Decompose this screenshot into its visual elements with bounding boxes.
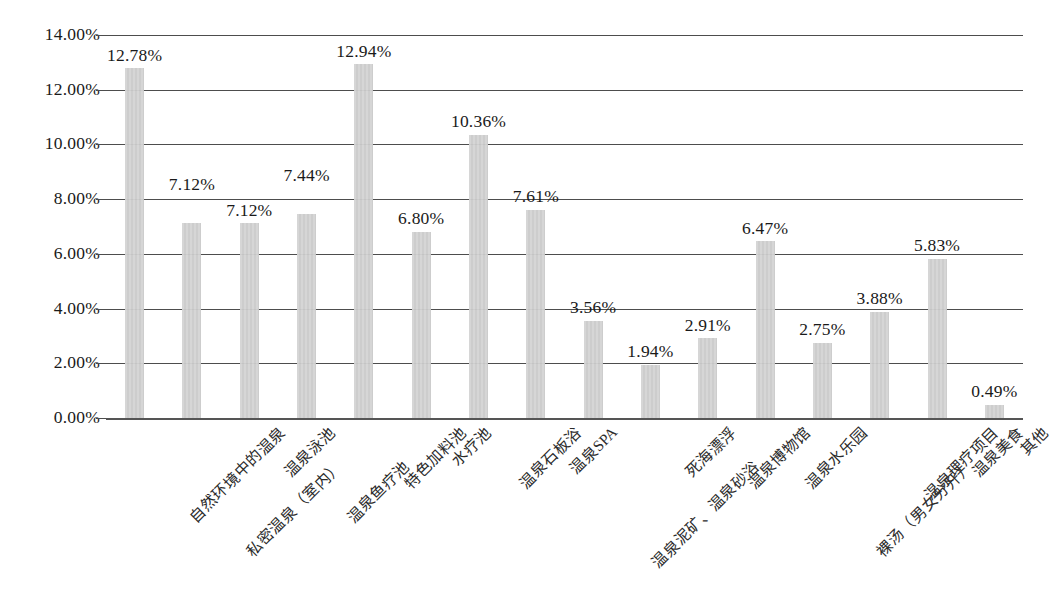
bar-group: 7.61%	[526, 35, 545, 418]
bar-group: 5.83%	[928, 35, 947, 418]
bar-group: 2.91%	[698, 35, 717, 418]
gridline	[106, 418, 1023, 420]
y-axis-tick-label: 8.00%	[4, 190, 100, 208]
y-axis-tick-label: 4.00%	[4, 300, 100, 318]
bar-value-label: 7.44%	[283, 167, 329, 185]
bar	[928, 259, 947, 418]
bar-value-label: 2.91%	[685, 317, 731, 335]
bar-value-label: 7.12%	[226, 202, 272, 220]
x-axis-category-label: 温泉泥矿、温泉砂浴	[649, 458, 762, 571]
bar	[985, 405, 1004, 418]
bar	[125, 68, 144, 418]
y-axis-tick-label: 12.00%	[4, 81, 100, 99]
y-axis-tick	[96, 363, 106, 364]
bar	[240, 223, 259, 418]
plot-area: 12.78%7.12%7.12%7.44%12.94%6.80%10.36%7.…	[106, 35, 1023, 418]
bar-value-label: 2.75%	[799, 321, 845, 339]
y-axis-tick-label: 6.00%	[4, 245, 100, 263]
bar-group: 12.94%	[354, 35, 373, 418]
bar	[756, 241, 775, 418]
x-axis-category-label: 温泉鱼疗池	[344, 458, 412, 526]
bar-group: 2.75%	[813, 35, 832, 418]
bar	[354, 64, 373, 418]
y-axis-tick-label: 0.00%	[4, 409, 100, 427]
bar	[297, 214, 316, 418]
y-axis-tick	[96, 309, 106, 310]
bar-group: 12.78%	[125, 35, 144, 418]
bar-value-label: 3.88%	[857, 290, 903, 308]
x-axis-labels: 自然环境中的温泉私密温泉（室内）温泉泳池温泉鱼疗池特色加料池水疗池温泉石板浴温泉…	[106, 424, 1023, 594]
bar	[870, 312, 889, 418]
y-axis-tick	[96, 199, 106, 200]
bar	[469, 135, 488, 418]
y-axis-tick	[96, 144, 106, 145]
bar	[412, 232, 431, 418]
y-axis-tick	[96, 254, 106, 255]
bar-group: 0.49%	[985, 35, 1004, 418]
bar-group: 6.47%	[756, 35, 775, 418]
bar-value-label: 3.56%	[570, 299, 616, 317]
bar	[584, 321, 603, 418]
bar	[698, 338, 717, 418]
x-axis-category-label: 自然环境中的温泉	[186, 424, 288, 526]
bar	[641, 365, 660, 418]
bar-group: 1.94%	[641, 35, 660, 418]
bar-group: 10.36%	[469, 35, 488, 418]
bar-group: 7.44%	[297, 35, 316, 418]
bar	[182, 223, 201, 418]
bar-value-label: 7.12%	[169, 176, 215, 194]
y-axis-tick	[96, 90, 106, 91]
bar	[526, 210, 545, 418]
bar-value-label: 6.47%	[742, 220, 788, 238]
bar-group: 3.88%	[870, 35, 889, 418]
y-axis-tick	[96, 35, 106, 36]
bar-value-label: 7.61%	[513, 188, 559, 206]
y-axis-tick	[96, 418, 106, 419]
y-axis-tick-label: 14.00%	[4, 26, 100, 44]
x-axis-category-label: 其他	[1018, 424, 1052, 458]
y-axis: 14.00%12.00%10.00%8.00%6.00%4.00%2.00%0.…	[0, 35, 100, 418]
bar-value-label: 10.36%	[451, 113, 506, 131]
bar-group: 7.12%	[240, 35, 259, 418]
y-axis-tick-label: 2.00%	[4, 354, 100, 372]
bar-group: 3.56%	[584, 35, 603, 418]
bar-value-label: 6.80%	[398, 210, 444, 228]
bar	[813, 343, 832, 418]
bar-value-label: 12.94%	[336, 43, 391, 61]
bar-value-label: 5.83%	[914, 237, 960, 255]
y-axis-tick-label: 10.00%	[4, 135, 100, 153]
bar-value-label: 1.94%	[627, 343, 673, 361]
x-axis-category-label: 死海漂浮	[683, 424, 740, 481]
bar-group: 6.80%	[412, 35, 431, 418]
bar-value-label: 12.78%	[107, 47, 162, 65]
bar-group: 7.12%	[182, 35, 201, 418]
bar-value-label: 0.49%	[971, 383, 1017, 401]
